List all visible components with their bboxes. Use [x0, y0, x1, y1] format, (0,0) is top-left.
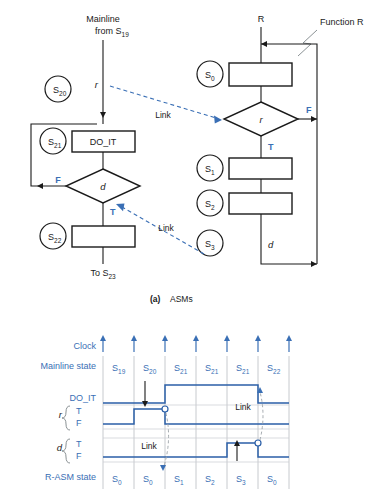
figure-caption: (a) ASMs	[150, 294, 193, 304]
mainline-state-cell: S21	[174, 363, 188, 375]
timing-label-r-asm-state: R-ASM state	[45, 472, 96, 482]
timing-label-do-it: DO_IT	[69, 393, 96, 403]
mainline-arrowhead-doit	[100, 112, 106, 118]
r-asm-state-cell: S0	[143, 474, 153, 486]
asm-mainline: Mainline from S19 r S20 DO_IT S21 d F T	[31, 14, 140, 280]
mainline-state-cell: S21	[205, 363, 219, 375]
asm-function-r: R Function R S0 r F T S1 S2 S3 d	[197, 14, 364, 267]
timing-link-curve-2	[260, 392, 263, 440]
link-label-1: Link	[155, 110, 171, 120]
function-r-entry-label: R	[258, 14, 265, 24]
link-arrow-2-head	[116, 204, 125, 212]
mainline-branch-false-label: F	[55, 175, 61, 185]
box-s2	[229, 193, 292, 214]
function-r-branch-false-label: F	[306, 105, 312, 115]
mainline-state-cell: S19	[112, 363, 126, 375]
mainline-state-cell: S22	[267, 363, 281, 375]
mainline-label-r: r	[95, 79, 99, 90]
clock-edges	[100, 335, 292, 352]
timing-brace-r	[62, 406, 70, 430]
mainline-state-cell: S21	[236, 363, 250, 375]
mainline-entry-line1: Mainline	[86, 14, 120, 24]
timing-r-true-label: T	[76, 406, 82, 416]
function-r-label-d: d	[268, 239, 274, 250]
clock-edge	[255, 335, 261, 352]
box-do-it-label: DO_IT	[90, 137, 117, 147]
function-r-branch-true-label: T	[268, 142, 274, 152]
figure-root: Mainline from S19 r S20 DO_IT S21 d F T	[0, 0, 389, 499]
r-asm-state-cell: S1	[174, 474, 184, 486]
clock-edge	[100, 335, 106, 352]
timing-r-false-label: F	[76, 418, 82, 428]
function-r-callout-leader	[298, 30, 317, 56]
pointer-r-rise-head	[142, 401, 148, 407]
box-s1	[229, 158, 292, 179]
mainline-branch-true-label: T	[110, 207, 116, 217]
sample-marker-d	[255, 440, 261, 446]
figure-svg: Mainline from S19 r S20 DO_IT S21 d F T	[0, 0, 389, 499]
function-r-return-arrowhead	[311, 261, 317, 267]
clock-edge	[286, 335, 292, 352]
r-asm-state-cell: S0	[267, 474, 277, 486]
r-asm-state-cell: S2	[205, 474, 215, 486]
function-r-bus-arrowhead	[261, 41, 267, 47]
mainline-feedback-arrowhead	[37, 183, 43, 189]
caption-text: ASMs	[170, 294, 193, 304]
r-asm-state-cell: S0	[112, 474, 122, 486]
timing-label-mainline-state: Mainline state	[40, 361, 96, 371]
function-r-callout-label: Function R	[320, 17, 364, 27]
sample-marker-r	[162, 406, 168, 412]
timing-label-clock: Clock	[73, 341, 96, 351]
timing-r-asm-state-row: S0 S0 S1 S2 S3 S0	[112, 474, 277, 486]
link-arrow-1-head	[214, 116, 222, 124]
r-asm-state-cell: S3	[236, 474, 246, 486]
function-r-false-arrowhead	[311, 116, 317, 122]
timing-gridlines	[103, 356, 289, 489]
timing-d-false-label: F	[76, 451, 82, 461]
timing-brace-d	[62, 439, 70, 463]
timing-d-true-label: T	[76, 439, 82, 449]
decision-diamond-d-label: d	[100, 181, 106, 192]
mainline-state-cell: S20	[143, 363, 157, 375]
timing-diagram: Clock Mainline state DO_IT R-ASM state r…	[40, 335, 292, 489]
mainline-exit-label: To S23	[90, 268, 116, 280]
clock-edge	[131, 335, 137, 352]
clock-edge	[162, 335, 168, 352]
timing-link-label-2: Link	[235, 402, 251, 412]
timing-link-label-1: Link	[141, 441, 157, 451]
timing-label-d: d	[57, 442, 63, 453]
box-s0	[229, 63, 292, 86]
link-label-2: Link	[158, 223, 174, 233]
clock-edge	[224, 335, 230, 352]
box-s22	[72, 226, 135, 247]
clock-edge	[193, 335, 199, 352]
caption-label: (a)	[150, 294, 161, 304]
mainline-entry-line2: from S19	[95, 26, 129, 38]
